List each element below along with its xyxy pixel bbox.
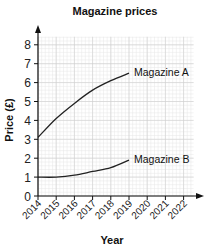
x-axis-arrow-icon [196, 193, 204, 199]
y-axis-label: Price (£) [3, 98, 15, 142]
series-lines [38, 73, 129, 177]
x-axis-label: Year [100, 234, 124, 246]
x-tick-label: 2019 [111, 197, 135, 221]
magazine-prices-chart: Magazine prices 012345678 20142015201620… [0, 0, 209, 251]
y-tick-label: 2 [24, 152, 31, 166]
x-tick-label: 2021 [147, 197, 171, 221]
y-tick-label: 0 [24, 190, 31, 204]
chart-title: Magazine prices [73, 5, 158, 17]
y-tick-label: 4 [24, 114, 31, 128]
axes [35, 25, 204, 199]
series-label-magazine-a: Magazine A [134, 66, 189, 78]
y-tick-label: 1 [24, 171, 31, 185]
x-tick-label: 2015 [38, 197, 62, 221]
series-line-magazine-b [38, 160, 129, 177]
grid [38, 37, 194, 196]
x-tick-label: 2020 [129, 197, 153, 221]
y-tick-labels: 012345678 [24, 38, 38, 203]
x-tick-label: 2022 [166, 197, 190, 221]
y-tick-label: 8 [24, 38, 31, 52]
x-tick-label: 2018 [93, 197, 117, 221]
y-tick-label: 7 [24, 57, 31, 71]
x-tick-label: 2017 [75, 197, 99, 221]
series-label-magazine-b: Magazine B [134, 153, 189, 165]
y-tick-label: 6 [24, 76, 31, 90]
y-axis-arrow-icon [35, 25, 41, 33]
y-tick-label: 5 [24, 95, 31, 109]
x-tick-label: 2016 [56, 197, 80, 221]
x-tick-labels: 201420152016201720182019202020212022 [20, 196, 189, 221]
y-tick-label: 3 [24, 133, 31, 147]
